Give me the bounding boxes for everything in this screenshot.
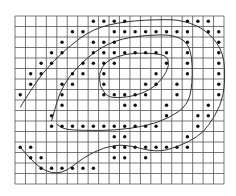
grid-dot [154, 30, 157, 33]
grid-dot [29, 83, 32, 86]
grid-dot [102, 83, 105, 86]
grid-dot [165, 30, 168, 33]
grid-dot [217, 30, 220, 33]
grid-dot [133, 104, 136, 107]
grid-dot [175, 30, 178, 33]
grid-dot [133, 125, 136, 128]
grid-dot [144, 156, 147, 159]
grid-dot [207, 20, 210, 23]
grid-dot [123, 146, 126, 149]
grid-dot [123, 156, 126, 159]
grid-dot [50, 114, 53, 117]
grid-dot [50, 51, 53, 54]
grid-dot [19, 146, 22, 149]
grid-dot [123, 51, 126, 54]
grid-dot [217, 41, 220, 44]
inner-curve [99, 53, 168, 97]
grid-dot [133, 93, 136, 96]
grid-dot [133, 51, 136, 54]
grid-dot [186, 62, 189, 65]
grid-dot [50, 62, 53, 65]
grid-dot [123, 20, 126, 23]
grid-dot [207, 114, 210, 117]
grid-dot [60, 51, 63, 54]
grid-dot [50, 125, 53, 128]
grid-dot [186, 146, 189, 149]
grid-dot [102, 62, 105, 65]
grid-dot [113, 41, 116, 44]
grid-dot [186, 72, 189, 75]
grid-dot [113, 62, 116, 65]
grid-dot [81, 62, 84, 65]
grid-dot [196, 125, 199, 128]
grid-dot [39, 62, 42, 65]
grid-dot [154, 146, 157, 149]
grid-dot [144, 125, 147, 128]
grid-dot [29, 146, 32, 149]
grid-dot [186, 20, 189, 23]
grid-lines [15, 16, 224, 184]
grid-dot [102, 41, 105, 44]
grid-dot [60, 167, 63, 170]
grid-dot [60, 83, 63, 86]
grid-dot [60, 41, 63, 44]
grid-dot [81, 72, 84, 75]
grid-dot [154, 72, 157, 75]
grid-dot [60, 104, 63, 107]
grid-dot [39, 167, 42, 170]
grid-dot [102, 125, 105, 128]
grid-dot [92, 62, 95, 65]
grid-dot [113, 30, 116, 33]
outer-curve [20, 20, 224, 173]
grid-dot [113, 146, 116, 149]
grid-dot [207, 30, 210, 33]
grid-dot [29, 72, 32, 75]
grid-dot [102, 20, 105, 23]
grid-dot [217, 72, 220, 75]
grid-dot [123, 30, 126, 33]
grid-dot [144, 30, 147, 33]
grid-dot [81, 125, 84, 128]
grid-dot [102, 93, 105, 96]
grid-dot [71, 167, 74, 170]
grid-dot [29, 156, 32, 159]
grid-dot [165, 62, 168, 65]
grid-dot [175, 83, 178, 86]
grid-dot [92, 51, 95, 54]
grid-dot [92, 41, 95, 44]
grid-dot [196, 114, 199, 117]
grid-dot [165, 146, 168, 149]
grid-dot [144, 51, 147, 54]
grid-dot [50, 167, 53, 170]
grid-dot [165, 51, 168, 54]
grid-dot [81, 30, 84, 33]
grid-dot [92, 20, 95, 23]
grid-dot [186, 51, 189, 54]
grid-dot [113, 135, 116, 138]
grid-dot [175, 146, 178, 149]
grid-dot [175, 93, 178, 96]
grid-dot [113, 125, 116, 128]
grid-dot [144, 146, 147, 149]
grid-dot [39, 72, 42, 75]
grid-dot [102, 72, 105, 75]
grid-dot [123, 104, 126, 107]
grid-dot [154, 125, 157, 128]
grid-dot [113, 51, 116, 54]
grid-dot [81, 167, 84, 170]
grid-dot [217, 93, 220, 96]
grid-dot [71, 72, 74, 75]
grid-dot [165, 114, 168, 117]
grid-dot [154, 51, 157, 54]
grid-dot [207, 104, 210, 107]
grid-dot [60, 93, 63, 96]
grid-dot [217, 62, 220, 65]
grid-dot [71, 125, 74, 128]
grid-dot [92, 125, 95, 128]
grid-dot [196, 20, 199, 23]
grid-dot [123, 135, 126, 138]
grid-dot [60, 125, 63, 128]
grid-dot [186, 135, 189, 138]
grid-dot [92, 167, 95, 170]
grid-dot [154, 83, 157, 86]
